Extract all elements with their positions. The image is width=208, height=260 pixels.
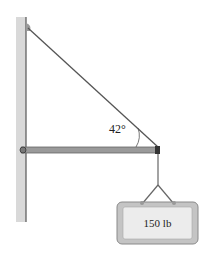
load-label: 150 lb [117,202,198,244]
wall [16,17,26,222]
angle-label: 42° [109,122,126,137]
boom [21,146,160,154]
angle-arc [136,128,139,147]
hanger-chain [142,154,174,204]
pin-support-icon [20,147,26,153]
